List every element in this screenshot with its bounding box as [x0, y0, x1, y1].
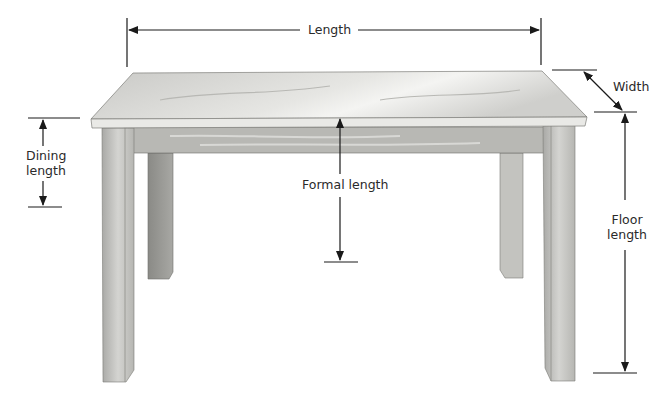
width-label: Width	[611, 79, 651, 94]
dining-length-label-line1: Dining	[24, 148, 66, 163]
floor-length-label-line2: length	[604, 227, 650, 242]
table-illustration	[0, 0, 671, 403]
dining-length-label-line2: length	[24, 163, 66, 178]
front-right-leg	[543, 125, 575, 381]
length-label: Length	[306, 22, 353, 37]
table-apron	[124, 127, 548, 153]
back-left-leg	[148, 153, 173, 279]
floor-length-label-line1: Floor	[607, 212, 647, 227]
tabletop	[91, 71, 587, 128]
front-left-leg	[102, 128, 134, 382]
table-dimensions-diagram: Length Width Dining length Formal length…	[0, 0, 671, 403]
floor-length-dimension	[593, 114, 637, 373]
back-right-leg	[500, 153, 523, 278]
formal-length-label: Formal length	[300, 177, 390, 192]
